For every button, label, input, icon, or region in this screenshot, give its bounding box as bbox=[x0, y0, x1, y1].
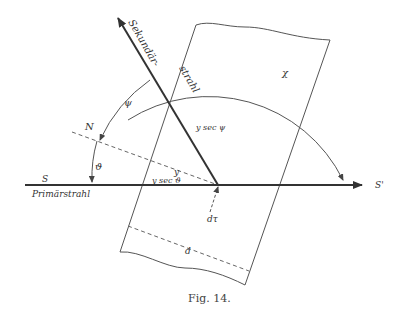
label-S: S bbox=[42, 174, 48, 184]
label-d: d bbox=[185, 246, 191, 256]
figure-caption: Fig. 14. bbox=[188, 292, 231, 305]
label-secondary-ray-2: strahl bbox=[177, 64, 201, 95]
label-N: N bbox=[84, 121, 95, 132]
label-chi: χ bbox=[281, 67, 289, 78]
diagram: Sekundär- strahl χ ψ N ϑ y sec ψ y y sec… bbox=[0, 0, 410, 309]
dtau-line bbox=[210, 187, 218, 212]
label-y-sec-psi: y sec ψ bbox=[195, 123, 226, 132]
arc-psi bbox=[100, 80, 150, 140]
label-S-prime: S' bbox=[375, 180, 384, 190]
label-y-sec-theta: y sec ϑ bbox=[151, 176, 181, 185]
label-primary-ray: Primärstrahl bbox=[31, 189, 90, 199]
arc-chi bbox=[128, 97, 343, 180]
label-theta: ϑ bbox=[95, 161, 102, 172]
label-dtau: dτ bbox=[207, 214, 219, 224]
label-psi: ψ bbox=[124, 97, 132, 108]
secondary-ray bbox=[118, 18, 218, 185]
